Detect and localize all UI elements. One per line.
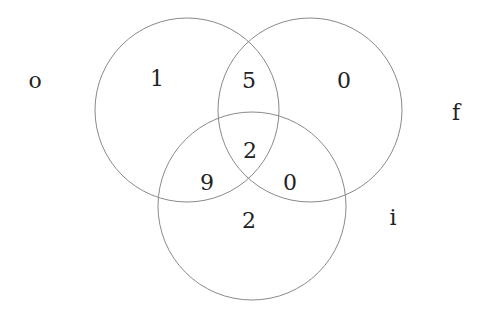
venn-diagram: o f i 1 5 0 2 9 0 2 [0,0,477,314]
circle-o [95,18,279,202]
region-o-f-i: 2 [243,138,257,163]
set-label-f: f [452,100,462,125]
set-label-i: i [389,205,396,230]
circle-f [218,18,402,202]
region-o-i: 9 [200,170,214,195]
region-i-only: 2 [242,208,256,233]
region-f-i: 0 [283,170,297,195]
region-o-only: 1 [150,66,164,91]
region-o-f: 5 [242,68,256,93]
region-f-only: 0 [337,68,351,93]
set-label-o: o [28,68,41,93]
